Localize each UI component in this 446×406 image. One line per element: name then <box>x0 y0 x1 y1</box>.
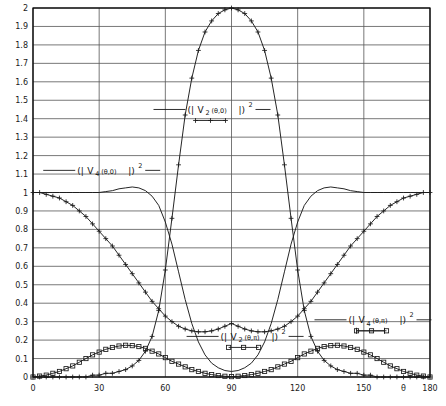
y-tick-label: 1.6 <box>15 78 28 87</box>
data-point-marker <box>50 194 55 199</box>
x-axis-symbol: θ <box>401 384 406 393</box>
y-tick-label: 0.3 <box>15 318 28 327</box>
data-point-marker <box>123 367 128 372</box>
data-point-marker <box>242 327 247 332</box>
data-point-marker <box>222 324 227 329</box>
annotation-exponent: 2 <box>410 311 414 319</box>
y-tick-label: 0.6 <box>15 262 28 271</box>
data-point-marker <box>289 216 294 221</box>
data-point-marker <box>275 327 280 332</box>
data-point-marker <box>77 375 82 380</box>
annotation-symbol: V <box>87 166 94 176</box>
annotation-argument: (θ,0) <box>212 107 227 115</box>
data-point-marker <box>189 76 194 81</box>
data-point-marker <box>309 334 314 339</box>
data-point-marker <box>196 48 201 53</box>
data-point-marker <box>269 76 274 81</box>
annotation-subscript: 4 <box>367 320 371 328</box>
data-point-marker <box>203 329 208 334</box>
y-tick-label: 0.2 <box>15 336 28 345</box>
annotation-subscript: 4 <box>95 170 99 178</box>
y-tick-label: 1.3 <box>15 133 28 142</box>
annotation-bracket-open: (| <box>77 166 84 176</box>
data-point-marker <box>375 375 380 380</box>
data-point-marker <box>355 371 360 376</box>
y-tick-label: 0.8 <box>15 225 28 234</box>
data-point-marker <box>70 375 75 380</box>
data-point-marker <box>64 199 69 204</box>
data-point-marker <box>196 329 201 334</box>
x-tick-label: 180 <box>422 384 437 393</box>
y-tick-label: 0.4 <box>15 299 28 308</box>
annotation-subscript: 2 <box>239 336 243 344</box>
x-tick-label: 150 <box>356 384 371 393</box>
data-point-marker <box>110 371 115 376</box>
data-point-marker <box>335 367 340 372</box>
annotation-bracket-open: (| <box>188 105 195 115</box>
data-point-marker <box>183 327 188 332</box>
annotation-exponent: 2 <box>249 101 253 109</box>
annotation-argument: (θ,0) <box>101 168 116 176</box>
data-point-marker <box>163 268 168 273</box>
annotation-bracket-close: |) <box>272 332 279 342</box>
x-tick-label: 120 <box>290 384 305 393</box>
data-point-marker <box>395 199 400 204</box>
annotation-argument: (θ,π) <box>373 317 388 325</box>
data-point-marker <box>395 375 400 380</box>
data-point-marker <box>57 196 62 201</box>
data-point-marker <box>275 113 280 118</box>
data-point-marker <box>249 328 254 333</box>
annotation-bracket-open: (| <box>221 332 228 342</box>
annotation-bracket-close: |) <box>239 105 246 115</box>
annotation-symbol: V <box>359 315 366 325</box>
data-point-marker <box>203 30 208 35</box>
data-point-marker <box>401 375 406 380</box>
y-tick-label: 0 <box>23 373 28 382</box>
data-point-marker <box>84 375 89 380</box>
data-point-marker <box>103 371 108 376</box>
x-tick-label: 0 <box>30 384 35 393</box>
data-point-marker <box>64 375 69 380</box>
y-tick-label: 0.5 <box>15 281 28 290</box>
data-point-marker <box>342 369 347 374</box>
y-tick-label: 1.9 <box>15 22 28 31</box>
y-tick-label: 2 <box>23 4 28 13</box>
data-point-marker <box>176 162 181 167</box>
data-point-marker <box>282 162 287 167</box>
annotation-subscript: 2 <box>206 109 210 117</box>
annotation-bracket-close: |) <box>400 315 407 325</box>
data-point-marker <box>236 324 241 329</box>
data-point-marker <box>216 327 221 332</box>
y-tick-label: 1.1 <box>15 170 28 179</box>
annotation-bracket-open: (| <box>349 315 356 325</box>
data-point-marker <box>256 30 261 35</box>
y-tick-label: 0.1 <box>15 355 28 364</box>
plot-canvas: 00.10.20.30.40.50.60.70.80.911.11.21.31.… <box>0 0 446 406</box>
y-tick-label: 1.2 <box>15 152 28 161</box>
annotation-exponent: 2 <box>282 328 286 336</box>
y-tick-label: 1.7 <box>15 59 28 68</box>
data-point-marker <box>117 369 122 374</box>
y-tick-label: 1 <box>23 189 28 198</box>
y-tick-label: 0.9 <box>15 207 28 216</box>
x-tick-label: 90 <box>226 384 236 393</box>
data-point-marker <box>229 6 234 11</box>
data-point-marker <box>348 371 353 376</box>
annotation-symbol: V <box>198 105 205 115</box>
data-point-marker <box>150 334 155 339</box>
annotation-bracket-close: |) <box>128 166 135 176</box>
data-point-marker <box>262 329 267 334</box>
y-tick-label: 1.8 <box>15 41 28 50</box>
y-tick-label: 1.5 <box>15 96 28 105</box>
data-point-marker <box>381 375 386 380</box>
data-point-marker <box>401 196 406 201</box>
data-point-marker <box>57 375 62 380</box>
data-point-marker <box>262 48 267 53</box>
data-point-marker <box>295 268 300 273</box>
annotation-exponent: 2 <box>138 162 142 170</box>
annotation-symbol: V <box>231 332 238 342</box>
data-point-marker <box>408 194 413 199</box>
y-tick-label: 1.4 <box>15 115 28 124</box>
x-tick-label: 60 <box>160 384 170 393</box>
data-point-marker <box>388 375 393 380</box>
